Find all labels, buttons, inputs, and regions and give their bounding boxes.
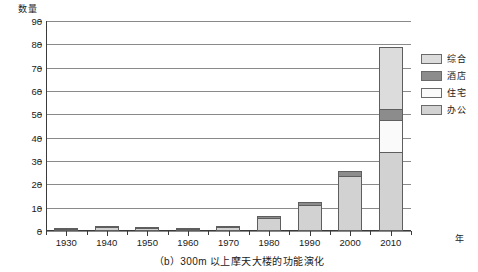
x-axis-boundary-tick: [46, 231, 47, 235]
x-axis-title: 年: [455, 232, 464, 245]
x-axis-boundary-tick: [127, 231, 128, 235]
legend-item-label: 住宅: [447, 86, 466, 99]
bar-slot: [289, 21, 330, 231]
x-axis-tick-label: 1990: [299, 237, 320, 248]
legend-swatch-icon: [421, 71, 442, 81]
stacked-bar[interactable]: [379, 47, 403, 231]
legend-item-label: 办公: [447, 103, 466, 116]
x-axis-tick-label: 2010: [380, 237, 401, 248]
x-axis-boundary-tick: [330, 231, 331, 235]
y-axis-tick-mark: [38, 44, 42, 45]
x-axis-tick-label: 1960: [177, 237, 198, 248]
x-axis-tick-label: 1930: [56, 237, 77, 248]
x-axis-boundary-tick: [249, 231, 250, 235]
bar-slot: [330, 21, 371, 231]
legend-swatch-icon: [421, 105, 442, 115]
chart-legend: 综合酒店住宅办公: [421, 50, 477, 118]
x-axis-tick-mark: [147, 231, 148, 236]
x-axis-boundary-tick: [168, 231, 169, 235]
y-axis-tick-mark: [38, 114, 42, 115]
y-axis-tick-labels: 0102030405060708090: [0, 21, 42, 231]
chart-figure: 数量 年 0102030405060708090 193019401950196…: [0, 0, 478, 272]
bar-slot: [168, 21, 209, 231]
x-axis-tick-label: 2000: [340, 237, 361, 248]
stacked-bar[interactable]: [257, 216, 281, 231]
x-axis-tick-mark: [269, 231, 270, 236]
x-axis-boundary-tick: [411, 231, 412, 235]
legend-swatch-icon: [421, 54, 442, 64]
x-axis-tick-label: 1970: [218, 237, 239, 248]
legend-item-label: 综合: [447, 52, 466, 65]
bar-segment[interactable]: [379, 152, 403, 231]
x-axis-ticks: 193019401950196019701980199020002010: [46, 231, 411, 249]
y-axis-title: 数量: [18, 2, 38, 15]
stacked-bar[interactable]: [298, 202, 322, 231]
x-axis-boundary-tick: [87, 231, 88, 235]
bar-segment[interactable]: [379, 47, 403, 110]
y-axis-tick-mark: [38, 138, 42, 139]
x-axis-tick-mark: [229, 231, 230, 236]
bar-slot: [87, 21, 128, 231]
bar-slot: [370, 21, 411, 231]
legend-item-label: 酒店: [447, 69, 466, 82]
x-axis-tick-mark: [188, 231, 189, 236]
x-axis-tick-mark: [350, 231, 351, 236]
y-axis-tick-mark: [38, 208, 42, 209]
y-axis-tick-mark: [38, 91, 42, 92]
x-axis-tick-label: 1940: [96, 237, 117, 248]
y-axis-tick-mark: [38, 161, 42, 162]
bar-series-group: [46, 21, 411, 231]
legend-item[interactable]: 酒店: [421, 67, 477, 84]
bar-segment[interactable]: [257, 218, 281, 231]
bar-segment[interactable]: [338, 176, 362, 231]
x-axis-tick-mark: [391, 231, 392, 236]
y-axis-tick-mark: [38, 21, 42, 22]
x-axis-tick-mark: [107, 231, 108, 236]
legend-item[interactable]: 住宅: [421, 84, 477, 101]
y-axis-tick-mark: [38, 184, 42, 185]
plot-area: [46, 21, 411, 231]
legend-item[interactable]: 办公: [421, 101, 477, 118]
stacked-bar[interactable]: [338, 171, 362, 231]
figure-caption: （b）300m 以上摩天大楼的功能演化: [0, 253, 478, 268]
x-axis-boundary-tick: [289, 231, 290, 235]
bar-segment[interactable]: [379, 120, 403, 153]
bar-slot: [249, 21, 290, 231]
legend-swatch-icon: [421, 88, 442, 98]
x-axis-tick-mark: [310, 231, 311, 236]
bar-slot: [46, 21, 87, 231]
bar-segment[interactable]: [298, 205, 322, 231]
x-axis-tick-label: 1950: [137, 237, 158, 248]
x-axis-tick-label: 1980: [258, 237, 279, 248]
bar-slot: [127, 21, 168, 231]
legend-item[interactable]: 综合: [421, 50, 477, 67]
y-axis-tick-mark: [38, 68, 42, 69]
x-axis-tick-mark: [66, 231, 67, 236]
bar-slot: [208, 21, 249, 231]
x-axis-boundary-tick: [370, 231, 371, 235]
y-axis-tick-mark: [38, 231, 42, 232]
x-axis-boundary-tick: [208, 231, 209, 235]
